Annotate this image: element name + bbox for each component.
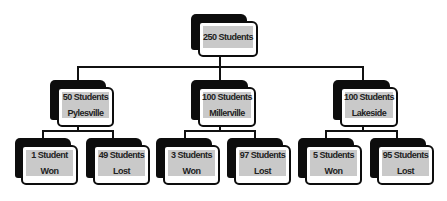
node-count: 95 Students [383,147,429,163]
node-box: 49 Students Lost [93,145,150,185]
node-count: 49 Students [99,147,145,163]
node-fill: 97 Students Lost [239,150,286,176]
node-outcome: Won [325,163,343,179]
connector-lakeside-horizontal [325,130,398,132]
node-school: Millerville [209,105,245,121]
node-lakeside-lost: 95 Students Lost [370,138,434,185]
node-fill: 100 Students Lakeside [345,92,393,118]
node-count: 97 Students [240,147,286,163]
node-box: 1 Student Won [21,145,78,185]
connector-pylesville-horizontal [42,130,114,132]
node-school: Pylesville [67,105,103,121]
node-millerville-won: 3 Students Won [156,138,220,185]
node-box: 250 Students [198,21,258,57]
node-box: 100 Students Millerville [198,87,256,127]
connector-millerville-horizontal [184,130,256,132]
node-school: Lakeside [352,105,387,121]
node-box: 97 Students Lost [234,145,291,185]
node-label: 250 Students [203,29,253,45]
node-lakeside: 100 Students Lakeside [333,80,398,127]
node-pylesville-lost: 49 Students Lost [86,138,150,185]
node-root: 250 Students [191,14,258,57]
node-outcome: Lost [397,163,414,179]
node-fill: 3 Students Won [168,150,215,176]
node-fill: 50 Students Pylesville [62,92,109,118]
node-outcome: Lost [254,163,271,179]
node-count: 3 Students [171,147,212,163]
node-count: 50 Students [63,89,109,105]
node-fill: 49 Students Lost [98,150,145,176]
node-count: 100 Students [344,89,394,105]
node-box: 50 Students Pylesville [57,87,114,127]
node-box: 100 Students Lakeside [340,87,398,127]
node-count: 5 Students [313,147,354,163]
node-count: 1 Student [31,147,68,163]
node-pylesville-won: 1 Student Won [15,138,78,185]
node-box: 3 Students Won [163,145,220,185]
node-box: 95 Students Lost [377,145,434,185]
node-box: 5 Students Won [305,145,362,185]
node-millerville-lost: 97 Students Lost [227,138,291,185]
node-outcome: Won [183,163,201,179]
node-outcome: Won [41,163,59,179]
node-millerville: 100 Students Millerville [191,80,256,127]
node-count: 100 Students [202,89,252,105]
node-fill: 5 Students Won [310,150,357,176]
node-fill: 250 Students [203,26,253,48]
node-fill: 95 Students Lost [382,150,429,176]
node-fill: 100 Students Millerville [203,92,251,118]
node-fill: 1 Student Won [26,150,73,176]
node-outcome: Lost [113,163,130,179]
node-pylesville: 50 Students Pylesville [50,80,114,127]
node-lakeside-won: 5 Students Won [298,138,362,185]
